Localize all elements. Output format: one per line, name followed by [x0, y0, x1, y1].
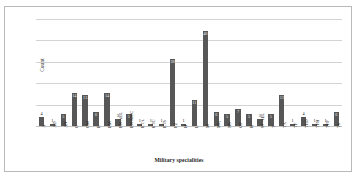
- bar-value-label: 1: [182, 119, 184, 124]
- x-tick-cell: L: [189, 128, 200, 156]
- x-tick-label: T: [271, 125, 276, 128]
- bar-column[interactable]: 4: [298, 19, 309, 126]
- bar-value-label: 13: [83, 96, 87, 101]
- x-tick-label: CM: [85, 121, 90, 128]
- bar-column[interactable]: 3: [254, 19, 265, 126]
- x-tick-label: EM: [107, 121, 112, 128]
- x-tick-cell: AN: [58, 128, 69, 156]
- bar-value-label: 7: [237, 110, 239, 115]
- x-tick-label: OP: [238, 122, 243, 128]
- bar-value-label: 5: [226, 115, 228, 120]
- x-tick-label: AD: [52, 121, 57, 128]
- x-tick-label: L: [194, 125, 199, 128]
- x-tick-cell: TFH: [309, 128, 320, 156]
- x-tick-cell: TF: [287, 128, 298, 156]
- x-tick-cell: ETS: [156, 128, 167, 156]
- x-tick-cell: EM: [102, 128, 113, 156]
- bar-column[interactable]: 13: [80, 19, 91, 126]
- x-tick-cell: ETC: [145, 128, 156, 156]
- bar-column[interactable]: 11: [189, 19, 200, 126]
- bar-column[interactable]: 5: [244, 19, 255, 126]
- x-tick-label: C: [74, 125, 79, 128]
- bar-column[interactable]: 1: [156, 19, 167, 126]
- x-tick-label: EN MEC: [129, 111, 134, 128]
- x-tick-label: TFH: [315, 119, 320, 128]
- x-tick-label: MQ: [216, 121, 221, 128]
- x-tick-cell: H: [178, 128, 189, 156]
- bar-value-label: 6: [215, 113, 217, 118]
- bar-column[interactable]: 7: [233, 19, 244, 126]
- bar-value-label: 40: [203, 32, 207, 37]
- x-tick-label: TFP: [325, 120, 330, 128]
- x-axis-tick-labels: AADANCCMEEMEN AELEN MECETAETCETSFZHLMMQN…: [36, 128, 342, 156]
- bar-value-label: 4: [303, 112, 305, 117]
- bar-value-label: 14: [105, 94, 109, 99]
- bar-column[interactable]: 28: [167, 19, 178, 126]
- x-tick-label: AN: [63, 121, 68, 128]
- bar-value-label: 6: [95, 113, 97, 118]
- x-tick-cell: AD: [47, 128, 58, 156]
- bar[interactable]: [203, 31, 208, 126]
- bar-value-label: 13: [280, 96, 284, 101]
- x-tick-cell: OP: [233, 128, 244, 156]
- x-tick-cell: R: [244, 128, 255, 156]
- x-tick-label: A: [41, 125, 46, 128]
- x-tick-label: H: [183, 125, 188, 128]
- x-tick-label: ETA: [140, 119, 145, 128]
- bar[interactable]: [170, 59, 175, 126]
- bar-column[interactable]: 40: [200, 19, 211, 126]
- bar-value-label: 5: [270, 115, 272, 120]
- x-tick-label: TS: [336, 123, 341, 128]
- x-tick-label: ST AEL: [260, 113, 265, 128]
- x-tick-cell: C: [69, 128, 80, 156]
- bar-column[interactable]: 3: [112, 19, 123, 126]
- bar-value-label: 4: [40, 112, 42, 117]
- x-tick-cell: TFP: [320, 128, 331, 156]
- x-tick-label: ETC: [151, 119, 156, 128]
- x-tick-cell: EN MEC: [123, 128, 134, 156]
- bar-column[interactable]: 5: [222, 19, 233, 126]
- x-tick-cell: TS: [331, 128, 342, 156]
- x-tick-label: TA: [282, 122, 287, 128]
- x-tick-cell: E: [91, 128, 102, 156]
- bar-column[interactable]: 6: [91, 19, 102, 126]
- x-tick-label: TF: [293, 123, 298, 128]
- x-tick-cell: T: [265, 128, 276, 156]
- x-tick-label: E: [96, 125, 101, 128]
- x-tick-cell: A: [36, 128, 47, 156]
- bar-column[interactable]: 1: [320, 19, 331, 126]
- x-tick-cell: MQ: [211, 128, 222, 156]
- bar-value-label: 14: [72, 94, 76, 99]
- x-tick-cell: M: [200, 128, 211, 156]
- x-tick-label: ETS: [162, 120, 167, 128]
- x-tick-cell: EN AEL: [112, 128, 123, 156]
- bar-value-label: 5: [62, 115, 64, 120]
- bar-column[interactable]: 13: [276, 19, 287, 126]
- bar-column[interactable]: 1: [47, 19, 58, 126]
- x-tick-cell: TA: [276, 128, 287, 156]
- bar-column[interactable]: 14: [69, 19, 80, 126]
- x-tick-label: R: [249, 125, 254, 128]
- x-tick-label: TFD: [304, 119, 309, 128]
- bar-value-label: 11: [192, 101, 196, 106]
- bar-column[interactable]: 1: [134, 19, 145, 126]
- x-axis-title: Military specialities: [5, 157, 353, 163]
- x-tick-cell: FZ: [167, 128, 178, 156]
- bar-value-label: 28: [170, 60, 174, 65]
- x-tick-cell: ST AEL: [254, 128, 265, 156]
- bar-column[interactable]: 1: [178, 19, 189, 126]
- bar-column[interactable]: 5: [58, 19, 69, 126]
- bar-column[interactable]: 6: [211, 19, 222, 126]
- bar-series: 41514136143511128111406575351314116: [36, 19, 342, 126]
- chart-frame: Count 4151413614351112811140657535131411…: [4, 6, 352, 172]
- bar-column[interactable]: 1: [287, 19, 298, 126]
- x-tick-label: EN AEL: [118, 112, 123, 128]
- x-tick-label: M: [205, 124, 210, 128]
- bar-column[interactable]: 1: [145, 19, 156, 126]
- bar-column[interactable]: 1: [309, 19, 320, 126]
- bar-column[interactable]: 6: [331, 19, 342, 126]
- bar-column[interactable]: 14: [102, 19, 113, 126]
- bar-column[interactable]: 5: [265, 19, 276, 126]
- bar-column[interactable]: 4: [36, 19, 47, 126]
- x-tick-label: FZ: [173, 123, 178, 128]
